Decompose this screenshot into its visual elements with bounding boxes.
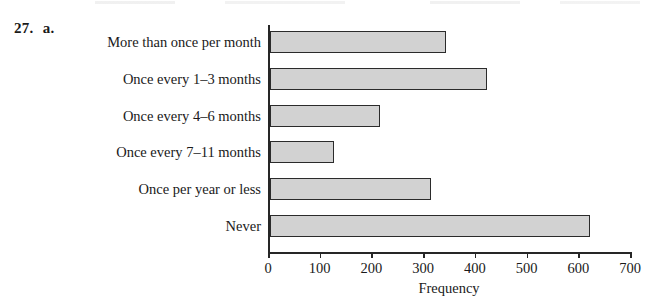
- x-tick-mark: [527, 252, 529, 258]
- x-tick-mark: [630, 252, 632, 258]
- x-tick-mark: [268, 252, 270, 258]
- x-tick-mark: [475, 252, 477, 258]
- bar-chart: 0100200300400500600700 Frequency More th…: [0, 0, 655, 306]
- bar-row: [270, 31, 446, 53]
- x-tick-label: 700: [619, 260, 641, 277]
- plot-area: 0100200300400500600700 Frequency: [268, 27, 630, 252]
- x-tick-label: 500: [516, 260, 538, 277]
- x-tick-label: 400: [464, 260, 486, 277]
- bar: [270, 105, 380, 127]
- x-axis-line: [268, 252, 631, 254]
- bar-row: [270, 68, 487, 90]
- bar: [270, 68, 487, 90]
- x-tick-mark: [371, 252, 373, 258]
- x-tick-label: 200: [361, 260, 383, 277]
- category-label: Once per year or less: [139, 178, 261, 200]
- x-tick-mark: [578, 252, 580, 258]
- x-tick-mark: [423, 252, 425, 258]
- bar-row: [270, 215, 590, 237]
- bar: [270, 31, 446, 53]
- x-axis-title: Frequency: [268, 280, 630, 297]
- bar-row: [270, 141, 334, 163]
- bar-row: [270, 178, 431, 200]
- bar: [270, 178, 431, 200]
- bar: [270, 215, 590, 237]
- category-label: More than once per month: [107, 31, 261, 53]
- category-label: Once every 4–6 months: [123, 105, 261, 127]
- category-label: Once every 1–3 months: [123, 68, 261, 90]
- x-tick-mark: [320, 252, 322, 258]
- x-tick-label: 300: [412, 260, 434, 277]
- category-label: Never: [226, 215, 261, 237]
- bar-row: [270, 105, 380, 127]
- category-label: Once every 7–11 months: [116, 141, 261, 163]
- bar: [270, 141, 334, 163]
- x-tick-label: 600: [567, 260, 589, 277]
- x-tick-label: 100: [309, 260, 331, 277]
- x-tick-label: 0: [264, 260, 271, 277]
